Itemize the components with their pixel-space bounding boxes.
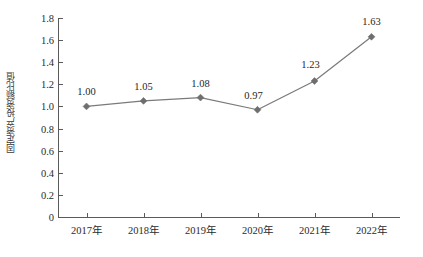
y-tick-label: 0 [49, 212, 54, 223]
y-tick-label: 1.6 [41, 35, 54, 46]
data-point-marker [197, 94, 204, 101]
y-axis-title: 固定资产投资额比值 [2, 0, 18, 225]
y-tick-label: 1.8 [41, 13, 54, 24]
plot-area: 00.20.40.60.81.01.21.41.61.8 2017年2018年2… [58, 18, 400, 218]
data-point-value-label: 1.63 [362, 16, 380, 27]
x-tick-label: 2021年 [299, 222, 330, 237]
y-tick-label: 1.0 [41, 101, 54, 112]
y-tick-label: 0.8 [41, 123, 54, 134]
data-point-value-label: 1.23 [301, 59, 319, 70]
data-point-marker [140, 98, 147, 105]
data-point-value-label: 1.00 [77, 86, 95, 97]
data-point-value-label: 0.97 [244, 90, 262, 101]
y-axis-title-label: 固定资产投资额比值 [6, 72, 15, 153]
series-plot [58, 18, 400, 218]
x-tick-label: 2018年 [128, 222, 159, 237]
x-tick-label: 2017年 [71, 222, 102, 237]
x-tick-label: 2019年 [185, 222, 216, 237]
data-point-value-label: 1.05 [134, 81, 152, 92]
data-point-marker [254, 106, 261, 113]
y-tick-label: 0.4 [41, 167, 54, 178]
series-markers [83, 33, 375, 113]
data-point-marker [83, 103, 90, 110]
line-chart: 固定资产投资额比值 00.20.40.60.81.01.21.41.61.8 2… [0, 0, 423, 257]
y-tick-label: 1.4 [41, 57, 54, 68]
y-tick-label: 1.2 [41, 79, 54, 90]
x-tick-label: 2020年 [242, 222, 273, 237]
series-line [87, 37, 372, 110]
y-tick-label: 0.6 [41, 145, 54, 156]
x-tick-label: 2022年 [356, 222, 387, 237]
data-point-value-label: 1.08 [191, 78, 209, 89]
y-tick-label: 0.2 [41, 189, 54, 200]
